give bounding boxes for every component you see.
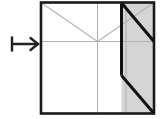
paper-folding-figure <box>0 0 164 119</box>
figure-canvas <box>0 0 164 119</box>
